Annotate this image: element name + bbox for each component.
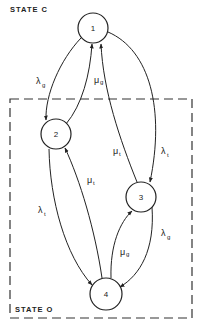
rate-label-lambda-g-3-4: λ g [161, 228, 170, 240]
svg-text:λ: λ [36, 76, 41, 86]
svg-text:t: t [167, 152, 169, 158]
svg-text:3: 3 [139, 193, 144, 202]
state-c-label: STATE C [10, 5, 48, 14]
state-diagram: STATE C STATE O 1 2 3 4 λ g μ g μ t [0, 0, 198, 324]
rate-label-lambda-g-1-2: λ g [36, 76, 45, 88]
svg-text:μ: μ [113, 146, 118, 156]
svg-text:λ: λ [38, 205, 43, 215]
edge-2-to-1 [66, 44, 92, 124]
edge-4-to-3 [111, 211, 132, 278]
node-4: 4 [90, 278, 122, 310]
svg-text:g: g [100, 79, 103, 85]
rate-label-lambda-t-2-4: λ t [38, 205, 46, 217]
svg-text:2: 2 [54, 130, 59, 139]
rate-label-lambda-t-1-3: λ t [161, 146, 169, 158]
svg-text:t: t [44, 211, 46, 217]
rate-label-mu-t-4-2: μ t [87, 175, 95, 186]
edge-3-to-1 [101, 44, 137, 182]
node-2: 2 [41, 119, 71, 149]
svg-text:μ: μ [87, 175, 92, 185]
node-1: 1 [78, 13, 108, 43]
svg-text:g: g [42, 82, 45, 88]
svg-text:g: g [167, 234, 170, 240]
svg-text:4: 4 [104, 290, 109, 299]
state-o-label: STATE O [15, 305, 53, 314]
svg-text:t: t [93, 180, 95, 186]
node-3: 3 [126, 182, 156, 212]
svg-text:t: t [119, 151, 121, 157]
svg-text:1: 1 [91, 24, 96, 33]
svg-text:μ: μ [94, 75, 99, 85]
edge-4-to-2 [65, 148, 102, 278]
rate-label-mu-g-2-1: μ g [94, 75, 103, 85]
svg-text:μ: μ [120, 247, 125, 257]
svg-text:g: g [126, 251, 129, 257]
svg-text:λ: λ [161, 228, 166, 238]
edge-1-to-3 [108, 32, 156, 182]
svg-text:λ: λ [161, 146, 166, 156]
rate-label-mu-g-4-3: μ g [120, 247, 129, 257]
edge-1-to-2 [46, 38, 81, 120]
edge-2-to-4 [49, 149, 92, 285]
rate-label-mu-t-3-1: μ t [113, 146, 121, 157]
